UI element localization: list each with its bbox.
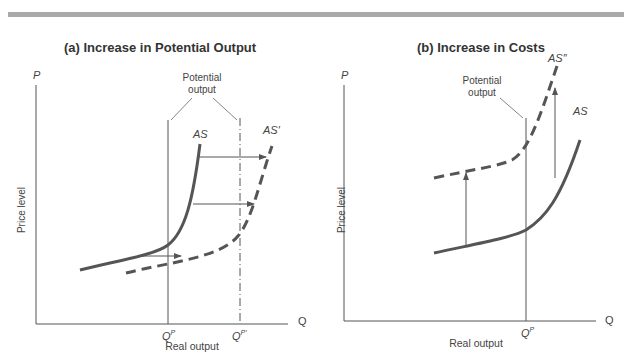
panel-b-x-symbol: Q bbox=[605, 314, 614, 326]
panel-b-annotation-line2: output bbox=[468, 87, 496, 98]
panel-a: P Q Price level Real output Potential ou… bbox=[16, 69, 307, 352]
panel-b-tick-qp: QP bbox=[521, 326, 535, 339]
panel-b: P Q Price level Real output Potential ou… bbox=[336, 52, 614, 349]
panel-a-as-label: AS bbox=[192, 128, 208, 140]
panel-b-annotation-line1: Potential bbox=[463, 75, 502, 86]
panel-b-as-double-prime-label: AS″ bbox=[547, 52, 568, 64]
panel-a-y-label: Price level bbox=[16, 187, 27, 233]
panel-a-as-curve bbox=[80, 144, 200, 270]
panel-b-as-curve bbox=[434, 140, 580, 253]
panel-a-x-label: Real output bbox=[165, 340, 219, 352]
panel-a-annotation-line1: Potential bbox=[183, 72, 222, 83]
panel-b-y-label: Price level bbox=[336, 187, 347, 233]
panel-a-annotation-line2: output bbox=[188, 84, 216, 95]
panel-b-y-symbol: P bbox=[341, 69, 349, 81]
panel-b-x-label: Real output bbox=[449, 337, 503, 349]
panel-a-x-symbol: Q bbox=[298, 315, 307, 327]
panel-a-as-prime-label: AS′ bbox=[262, 124, 281, 136]
panel-a-y-symbol: P bbox=[33, 69, 41, 81]
panel-a-tick-qp-prime: QP′ bbox=[232, 329, 247, 342]
diagram-canvas: P Q Price level Real output Potential ou… bbox=[0, 0, 624, 361]
panel-b-as-label: AS bbox=[572, 105, 588, 117]
